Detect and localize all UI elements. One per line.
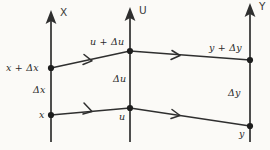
x-delta-label: Δx (33, 85, 46, 95)
segment-u-lower-y-lower (130, 108, 250, 126)
x-lower-value-label: x (39, 110, 45, 120)
node-x-upper (48, 65, 54, 71)
u-upper-value-label: u + Δu (90, 37, 124, 47)
node-u-lower (127, 105, 133, 111)
u-axis-label: U (139, 5, 147, 16)
x-upper-value-label: x + Δx (6, 63, 39, 73)
diagram-canvas: X U Y x + Δx Δx x u + Δu Δu u y + Δy Δy … (0, 0, 270, 150)
u-delta-label: Δu (113, 74, 126, 84)
y-axis-label: Y (259, 1, 266, 12)
node-y-upper (247, 57, 253, 63)
u-lower-value-label: u (119, 112, 125, 122)
y-upper-value-label: y + Δy (209, 43, 242, 53)
x-axis-label: X (60, 7, 67, 18)
node-u-upper (127, 48, 133, 54)
node-x-lower (48, 112, 54, 118)
y-lower-value-label: y (239, 129, 245, 139)
node-y-lower (247, 123, 253, 129)
y-delta-label: Δy (228, 88, 241, 98)
diagram-graphics (0, 0, 270, 150)
